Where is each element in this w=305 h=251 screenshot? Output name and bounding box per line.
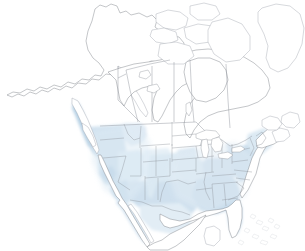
range-map-container xyxy=(0,0,305,251)
north-america-map xyxy=(0,0,305,251)
